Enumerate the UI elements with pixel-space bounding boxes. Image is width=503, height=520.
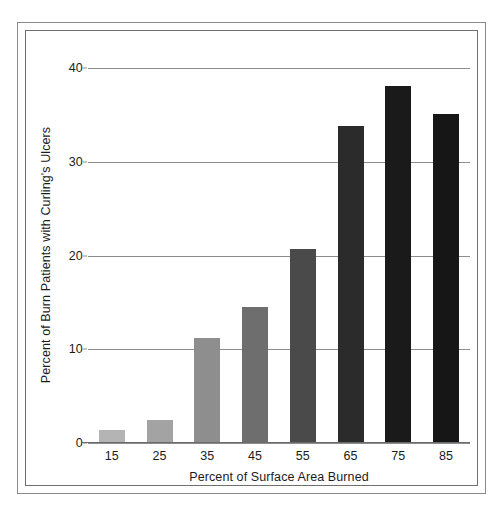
x-tick-label-85: 85 (422, 449, 470, 463)
bar-slot-65 (327, 67, 375, 442)
bar-slot-35 (184, 67, 232, 442)
gridline-0 (88, 443, 470, 444)
y-axis-title: Percent of Burn Patients with Curling's … (38, 60, 54, 450)
x-axis-title: Percent of Surface Area Burned (88, 470, 470, 484)
y-tick-label-20: 20 (69, 249, 83, 263)
bar-slot-55 (279, 67, 327, 442)
x-axis-tick-labels: 1525354555657585 (88, 449, 470, 463)
bar-slot-75 (375, 67, 423, 442)
bar-65[interactable] (338, 126, 364, 442)
x-tick-label-15: 15 (88, 449, 136, 463)
x-tick-label-75: 75 (375, 449, 423, 463)
bar-group (88, 67, 470, 442)
bar-35[interactable] (194, 338, 220, 442)
x-tick-label-65: 65 (327, 449, 375, 463)
x-axis-line (82, 442, 470, 443)
bar-25[interactable] (147, 420, 173, 443)
bar-slot-15 (88, 67, 136, 442)
bar-55[interactable] (290, 249, 316, 442)
y-tick-label-40: 40 (69, 61, 83, 75)
plot-area: 010203040 (88, 68, 470, 443)
y-tick-mark-20 (83, 255, 87, 256)
y-tick-label-10: 10 (69, 342, 83, 356)
x-tick-label-55: 55 (279, 449, 327, 463)
x-tick-label-35: 35 (184, 449, 232, 463)
y-tick-label-30: 30 (69, 155, 83, 169)
bar-75[interactable] (385, 86, 411, 442)
bar-45[interactable] (242, 307, 268, 442)
bar-slot-45 (231, 67, 279, 442)
y-tick-mark-30 (83, 161, 87, 162)
x-tick-label-25: 25 (136, 449, 184, 463)
y-tick-mark-10 (83, 349, 87, 350)
bar-15[interactable] (99, 430, 125, 442)
bar-slot-85 (422, 67, 470, 442)
x-tick-label-45: 45 (231, 449, 279, 463)
chart-figure: Percent of Burn Patients with Curling's … (0, 0, 503, 520)
y-tick-label-0: 0 (76, 436, 83, 450)
y-axis-title-text: Percent of Burn Patients with Curling's … (39, 127, 53, 383)
y-tick-mark-40 (83, 68, 87, 69)
bar-85[interactable] (433, 114, 459, 442)
bar-slot-25 (136, 67, 184, 442)
